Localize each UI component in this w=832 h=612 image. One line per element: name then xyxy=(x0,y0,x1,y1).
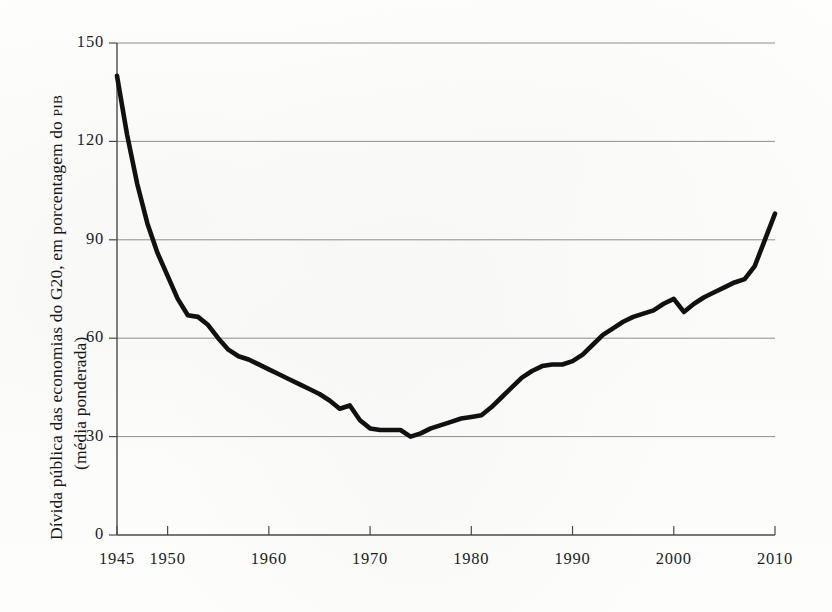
axis-lines xyxy=(117,43,775,535)
x-tick-label-1960: 1960 xyxy=(239,549,299,569)
x-tick-label-2010: 2010 xyxy=(745,549,805,569)
y-tick-label-150: 150 xyxy=(77,32,104,52)
x-tick-label-1950: 1950 xyxy=(138,549,198,569)
x-tick-label-1980: 1980 xyxy=(441,549,501,569)
y-tick-label-90: 90 xyxy=(86,229,104,249)
chart-plot xyxy=(0,0,832,612)
y-tick-label-0: 0 xyxy=(95,524,104,544)
x-tick-label-2000: 2000 xyxy=(644,549,704,569)
y-tick-label-60: 60 xyxy=(86,327,104,347)
data-series-layer xyxy=(117,76,775,437)
y-tick-label-120: 120 xyxy=(77,130,104,150)
tick-marks xyxy=(109,43,775,535)
gridlines xyxy=(117,43,775,437)
y-tick-label-30: 30 xyxy=(86,426,104,446)
x-tick-label-1970: 1970 xyxy=(340,549,400,569)
x-tick-label-1990: 1990 xyxy=(543,549,603,569)
chart-figure: Dívida pública das economias do G20, em … xyxy=(0,0,832,612)
data-line-series-0 xyxy=(117,76,775,437)
